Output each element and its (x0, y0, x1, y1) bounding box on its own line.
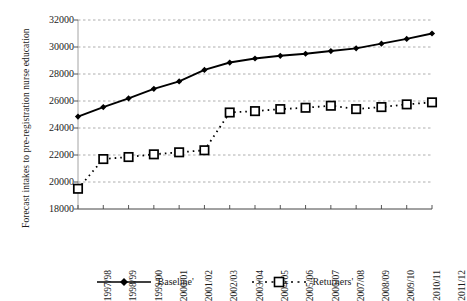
data-point-marker (403, 100, 411, 108)
data-point-marker (353, 45, 359, 51)
data-point-marker (151, 86, 157, 92)
data-point-marker (226, 108, 234, 116)
data-point-marker (75, 113, 81, 119)
data-point-marker (176, 78, 182, 84)
data-point-marker (429, 30, 435, 36)
data-point-marker (99, 155, 107, 163)
data-point-marker (404, 36, 410, 42)
data-point-marker (251, 107, 259, 115)
data-point-marker (301, 104, 309, 112)
x-axis-tick-labels: 1997/981998/991999/002000/012001/022002/… (0, 212, 450, 270)
data-point-marker (327, 102, 335, 110)
legend-item-returners: 'Returners' (252, 275, 353, 289)
legend-label-baseline: 'Baseline' (156, 276, 194, 288)
data-point-marker (328, 48, 334, 54)
data-point-marker (74, 185, 82, 193)
data-point-marker (124, 153, 132, 161)
data-point-marker (302, 51, 308, 57)
data-point-marker (377, 103, 385, 111)
data-point-marker (100, 104, 106, 110)
data-point-marker (201, 67, 207, 73)
dotted-line-icon (252, 275, 306, 289)
solid-line-icon (97, 276, 151, 288)
data-point-marker (378, 41, 384, 47)
chart-legend: 'Baseline' 'Returners' (0, 272, 450, 292)
data-point-marker (200, 146, 208, 154)
legend-label-returners: 'Returners' (311, 276, 353, 288)
legend-item-baseline: 'Baseline' (97, 276, 194, 288)
data-point-marker (352, 105, 360, 113)
data-point-marker (428, 98, 436, 106)
data-point-marker (277, 53, 283, 59)
data-point-marker (150, 150, 158, 158)
data-point-marker (276, 105, 284, 113)
data-point-marker (175, 148, 183, 156)
x-axis-tick-label: 2011/12 (457, 270, 467, 301)
data-point-marker (125, 95, 131, 101)
data-point-marker (227, 59, 233, 65)
data-point-marker (252, 55, 258, 61)
